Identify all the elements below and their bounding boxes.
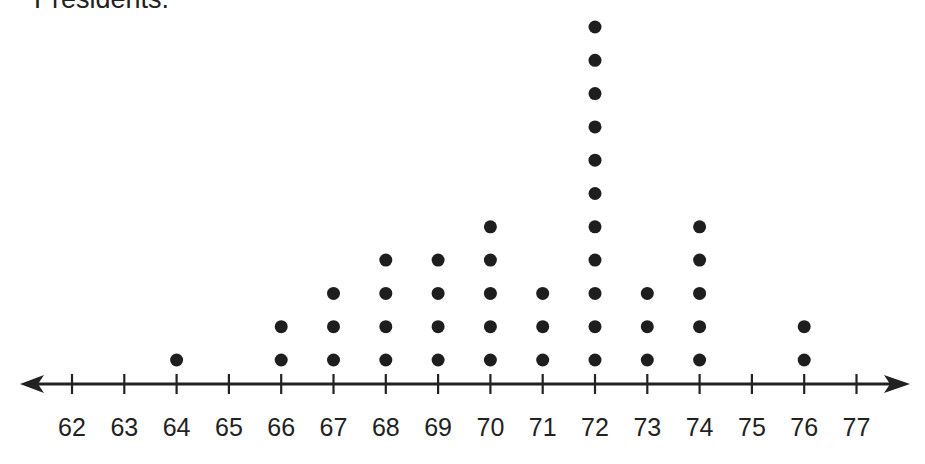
data-dot (641, 287, 654, 300)
data-dot (327, 354, 340, 367)
data-dot (589, 220, 602, 233)
tick-label: 70 (476, 413, 504, 441)
data-dot (432, 354, 445, 367)
data-dot (484, 354, 497, 367)
tick-label: 72 (581, 413, 609, 441)
data-dot (589, 187, 602, 200)
data-dot (379, 320, 392, 333)
data-dot (589, 120, 602, 133)
data-dot (484, 220, 497, 233)
tick-label: 67 (320, 413, 348, 441)
data-dot (589, 87, 602, 100)
data-dot (432, 320, 445, 333)
number-line-axis (20, 375, 910, 393)
data-dot (379, 354, 392, 367)
data-dot (275, 354, 288, 367)
data-dot (641, 320, 654, 333)
data-dots (170, 21, 811, 367)
tick-label: 77 (843, 413, 871, 441)
tick-label: 73 (633, 413, 661, 441)
tick-label: 68 (372, 413, 400, 441)
data-dot (693, 220, 706, 233)
data-dot (327, 287, 340, 300)
data-dot (432, 254, 445, 267)
data-dot (589, 254, 602, 267)
data-dot (275, 320, 288, 333)
tick-label: 71 (529, 413, 557, 441)
tick-label: 76 (790, 413, 818, 441)
data-dot (693, 354, 706, 367)
data-dot (693, 287, 706, 300)
data-dot (589, 287, 602, 300)
tick-label: 63 (110, 413, 138, 441)
tick-labels: 62636465666768697071727374757677 (58, 413, 870, 441)
data-dot (798, 354, 811, 367)
data-dot (693, 320, 706, 333)
tick-label: 75 (738, 413, 766, 441)
data-dot (693, 254, 706, 267)
dot-plot: 62636465666768697071727374757677 (0, 0, 925, 464)
data-dot (536, 354, 549, 367)
tick-label: 65 (215, 413, 243, 441)
data-dot (536, 320, 549, 333)
tick-label: 64 (163, 413, 191, 441)
data-dot (641, 354, 654, 367)
data-dot (798, 320, 811, 333)
tick-label: 69 (424, 413, 452, 441)
data-dot (589, 320, 602, 333)
tick-label: 74 (686, 413, 714, 441)
data-dot (327, 320, 340, 333)
data-dot (484, 287, 497, 300)
data-dot (379, 254, 392, 267)
data-dot (589, 354, 602, 367)
data-dot (484, 320, 497, 333)
data-dot (379, 287, 392, 300)
data-dot (484, 254, 497, 267)
data-dot (589, 21, 602, 34)
data-dot (170, 354, 183, 367)
tick-label: 62 (58, 413, 86, 441)
tick-label: 66 (267, 413, 295, 441)
data-dot (589, 154, 602, 167)
data-dot (432, 287, 445, 300)
data-dot (536, 287, 549, 300)
data-dot (589, 54, 602, 67)
